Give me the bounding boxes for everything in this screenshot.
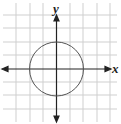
grid xyxy=(3,3,117,122)
coordinate-plane: x y xyxy=(0,0,121,124)
x-axis-label: x xyxy=(111,61,119,76)
y-axis-label: y xyxy=(51,1,59,16)
